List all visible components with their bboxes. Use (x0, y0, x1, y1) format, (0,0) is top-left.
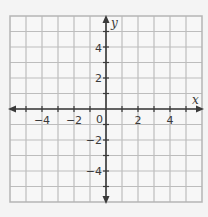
y-tick-label: −4 (86, 165, 102, 178)
y-axis-label: y (110, 16, 118, 30)
y-tick-label: −2 (86, 134, 102, 147)
y-tick-label: 4 (95, 42, 102, 55)
y-tick-label: 2 (95, 72, 102, 85)
x-axis-label: x (192, 93, 199, 107)
x-tick-label: 4 (167, 114, 174, 127)
x-tick-label: 2 (135, 114, 142, 127)
x-tick-label: −2 (66, 114, 82, 127)
coordinate-plane: x y 0 −4 −2 2 4 4 2 −2 −4 (0, 0, 208, 217)
x-tick-label: −4 (34, 114, 50, 127)
origin-label: 0 (96, 113, 103, 126)
